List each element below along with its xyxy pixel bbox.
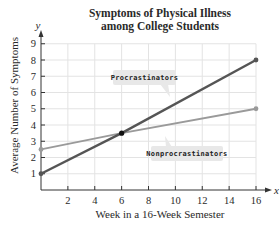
x-tick-label: 2 bbox=[65, 195, 70, 206]
x-tick-label: 6 bbox=[119, 195, 124, 206]
y-axis-variable: y bbox=[35, 19, 41, 31]
grid bbox=[41, 44, 256, 190]
y-tick-label: 4 bbox=[31, 120, 37, 131]
endpoint-marker bbox=[39, 171, 44, 176]
y-tick-label: 2 bbox=[31, 152, 36, 163]
y-tick-label: 3 bbox=[31, 136, 36, 147]
series-label-text: Procrastinators bbox=[111, 74, 179, 82]
plot-area: xy 246810121416123456789 Procrastinators… bbox=[0, 0, 280, 226]
x-tick-label: 8 bbox=[146, 195, 151, 206]
endpoint-marker bbox=[254, 58, 259, 63]
y-tick-label: 1 bbox=[31, 168, 36, 179]
label-nonprocrastinators: Nonprocrastinators bbox=[146, 136, 227, 161]
y-tick-label: 7 bbox=[31, 71, 36, 82]
intersection-point-marker bbox=[119, 131, 124, 136]
series-label-text: Nonprocrastinators bbox=[146, 150, 227, 158]
x-tick-label: 10 bbox=[170, 195, 181, 206]
x-axis-arrow-icon bbox=[265, 188, 272, 193]
endpoint-marker bbox=[39, 147, 44, 152]
x-tick-label: 14 bbox=[224, 195, 235, 206]
x-axis-variable: x bbox=[273, 184, 279, 196]
x-tick-label: 4 bbox=[92, 195, 98, 206]
endpoint-marker bbox=[254, 106, 259, 111]
y-tick-label: 6 bbox=[31, 87, 36, 98]
ticks: 246810121416123456789 bbox=[31, 38, 262, 206]
axes: xy bbox=[35, 19, 279, 196]
y-axis-arrow-icon bbox=[39, 30, 44, 37]
chart: Symptoms of Physical Illness among Colle… bbox=[0, 0, 280, 226]
y-tick-label: 8 bbox=[31, 55, 36, 66]
callout-tail bbox=[160, 84, 170, 97]
y-tick-label: 9 bbox=[31, 38, 36, 49]
x-tick-label: 16 bbox=[251, 195, 262, 206]
y-tick-label: 5 bbox=[31, 103, 36, 114]
x-tick-label: 12 bbox=[197, 195, 208, 206]
